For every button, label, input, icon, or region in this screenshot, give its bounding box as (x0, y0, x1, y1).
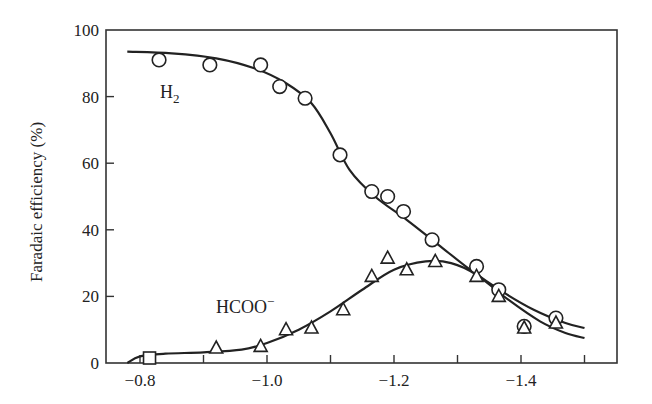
y-axis-ticks: 020406080100 (74, 21, 115, 373)
y-tick-label: 60 (82, 154, 99, 173)
circle-marker (298, 91, 312, 105)
fit-curves (127, 52, 584, 363)
circle-marker (381, 190, 395, 204)
y-tick-label: 100 (74, 21, 100, 40)
x-tick-label: −0.8 (125, 371, 156, 390)
triangle-marker (210, 341, 223, 353)
x-axis-ticks: −0.8−1.0−1.2−1.4 (125, 355, 585, 390)
square-marker (144, 352, 156, 364)
y-axis-title: Faradaic efficiency (%) (27, 122, 46, 282)
x-tick-label: −1.0 (252, 371, 283, 390)
x-tick-label: −1.2 (379, 371, 410, 390)
circle-marker (397, 205, 411, 219)
triangle-marker (337, 303, 350, 315)
y-tick-label: 0 (91, 354, 100, 373)
circle-marker (254, 58, 268, 72)
y-tick-label: 80 (82, 88, 99, 107)
fit-curve-hcoo (127, 261, 584, 363)
axes: −0.8−1.0−1.2−1.4 020406080100 Faradaic e… (27, 21, 617, 390)
circle-marker (425, 233, 439, 247)
faradaic-efficiency-chart: −0.8−1.0−1.2−1.4 020406080100 Faradaic e… (0, 0, 652, 404)
circle-marker (333, 148, 347, 162)
data-markers (144, 53, 563, 364)
triangle-marker (280, 323, 293, 335)
series-label-hcoo: HCOO− (216, 294, 274, 317)
circle-marker (273, 80, 287, 94)
series-label-h2: H2 (160, 82, 180, 106)
triangle-marker (305, 321, 318, 333)
triangle-marker (365, 269, 378, 281)
circle-marker (203, 58, 217, 72)
circle-marker (152, 53, 166, 67)
x-tick-label: −1.4 (506, 371, 537, 390)
fit-curve-h2 (127, 52, 584, 328)
triangle-marker (381, 251, 394, 263)
y-tick-label: 40 (82, 221, 99, 240)
y-tick-label: 20 (82, 287, 99, 306)
series-labels: H2 HCOO− (160, 82, 274, 317)
circle-marker (365, 185, 379, 199)
